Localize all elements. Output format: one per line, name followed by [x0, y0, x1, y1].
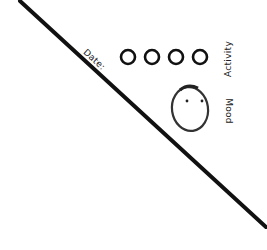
- activity-dot-2[interactable]: [145, 50, 159, 64]
- activity-label: Activity: [223, 37, 233, 81]
- mood-face-right-eye: [201, 100, 204, 103]
- mood-label: Mood: [224, 96, 234, 126]
- mood-face-icon[interactable]: [169, 85, 211, 134]
- activity-dot-4[interactable]: [193, 50, 207, 64]
- activity-dot-1[interactable]: [121, 50, 135, 64]
- activity-dot-3[interactable]: [169, 50, 183, 64]
- activity-dots: [121, 50, 207, 64]
- mood-face-left-eye: [186, 100, 189, 103]
